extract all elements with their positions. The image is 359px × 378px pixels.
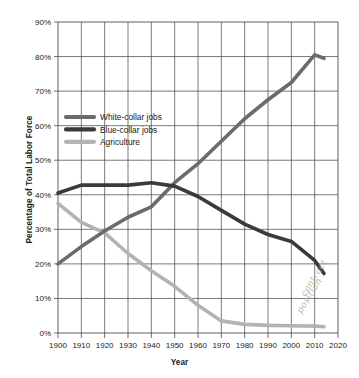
y-axis-tick-label: 60% xyxy=(35,122,51,131)
legend-label: White-collar jobs xyxy=(100,112,162,122)
x-axis-tick-label: 1940 xyxy=(142,341,160,350)
y-axis-tick-label: 20% xyxy=(35,260,51,269)
line-chart: 0%10%20%30%40%50%60%70%80%90% 1900191019… xyxy=(0,0,359,378)
y-axis-tick-label: 10% xyxy=(35,294,51,303)
x-axis-ticks: 1900191019201930194019501960197019801990… xyxy=(49,333,347,350)
x-axis-tick-label: 1950 xyxy=(166,341,184,350)
y-axis-tick-label: 30% xyxy=(35,225,51,234)
chart-legend: White-collar jobsBlue-collar jobsAgricul… xyxy=(66,112,162,147)
x-axis-tick-label: 2020 xyxy=(329,341,347,350)
y-axis-title: Percentage of Total Labor Force xyxy=(25,105,34,255)
gridlines xyxy=(58,22,338,333)
y-axis-tick-label: 0% xyxy=(39,329,51,338)
x-axis-title: Year xyxy=(0,358,359,367)
y-axis-tick-label: 70% xyxy=(35,87,51,96)
x-axis-tick-label: 1900 xyxy=(49,341,67,350)
legend-label: Blue-collar jobs xyxy=(100,125,157,135)
x-axis-tick-label: 1960 xyxy=(189,341,207,350)
y-axis-tick-label: 50% xyxy=(35,156,51,165)
chart-plot-area: 0%10%20%30%40%50%60%70%80%90% 1900191019… xyxy=(0,0,359,378)
series-line-white-collar-jobs xyxy=(58,55,324,264)
y-axis-tick-label: 90% xyxy=(35,18,51,27)
series-line-agriculture xyxy=(58,203,324,326)
x-axis-tick-label: 1930 xyxy=(119,341,137,350)
x-axis-tick-label: 1910 xyxy=(72,341,90,350)
legend-label: Agriculture xyxy=(100,137,140,147)
x-axis-tick-label: 2000 xyxy=(282,341,300,350)
x-axis-tick-label: 1970 xyxy=(212,341,230,350)
x-axis-tick-label: 1990 xyxy=(259,341,277,350)
data-series-layer xyxy=(58,55,324,327)
y-axis-ticks: 0%10%20%30%40%50%60%70%80%90% xyxy=(35,18,58,338)
x-axis-tick-label: 2010 xyxy=(306,341,324,350)
x-axis-tick-label: 1920 xyxy=(96,341,114,350)
y-axis-tick-label: 40% xyxy=(35,191,51,200)
y-axis-tick-label: 80% xyxy=(35,53,51,62)
x-axis-tick-label: 1980 xyxy=(236,341,254,350)
